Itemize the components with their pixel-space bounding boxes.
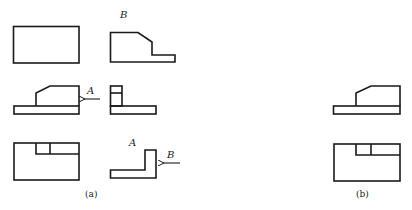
front-view xyxy=(14,86,79,114)
side-view-base xyxy=(111,106,157,114)
bottom-view-b-outline xyxy=(334,144,400,181)
side-view xyxy=(111,86,157,114)
side-view-upright xyxy=(111,86,123,106)
front-view-b-upper-block xyxy=(356,86,400,106)
top-view-rectangle xyxy=(14,27,80,64)
arrow-b-label: B xyxy=(166,149,174,160)
bottom-view xyxy=(14,143,79,180)
arrow-a-label: A xyxy=(86,85,94,96)
caption-a: (a) xyxy=(85,189,97,199)
bottom-view-b-slot xyxy=(356,144,400,155)
view-a-label: A xyxy=(128,137,136,148)
front-view-b xyxy=(334,86,401,114)
view-a-shape xyxy=(111,150,157,178)
panel-b: (b) xyxy=(334,86,401,199)
technical-drawing: B A A B (a) xyxy=(0,0,412,210)
panel-a: B A A B (a) xyxy=(14,9,181,199)
bottom-view-slot xyxy=(36,143,79,154)
front-view-base xyxy=(14,106,79,114)
front-view-b-base xyxy=(334,106,401,114)
front-view-upper-block xyxy=(36,86,79,106)
view-b-label: B xyxy=(119,9,127,20)
bottom-view-outline xyxy=(14,143,79,180)
bottom-view-b xyxy=(334,144,400,181)
view-b-shape xyxy=(111,33,176,63)
caption-b: (b) xyxy=(356,189,369,199)
